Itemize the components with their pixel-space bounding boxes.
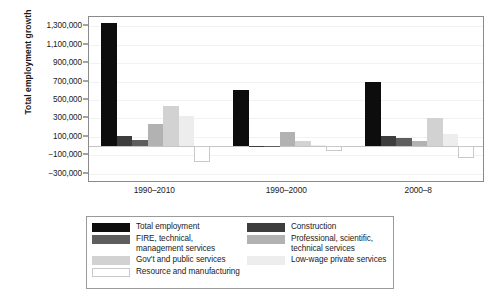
y-tick-label: 500,000	[53, 95, 82, 104]
bar	[295, 141, 311, 147]
grid-line	[89, 118, 483, 119]
bar	[326, 146, 342, 151]
bar	[117, 136, 133, 146]
legend-label: Resource and manufacturing	[136, 267, 240, 277]
bar	[148, 124, 164, 146]
bar	[427, 118, 443, 146]
y-tick-label: −300,000	[48, 168, 82, 177]
legend-swatch	[92, 268, 130, 277]
legend-item[interactable]: Resource and manufacturing	[92, 267, 240, 277]
bar	[458, 146, 474, 158]
legend-label: Low-wage private services	[291, 255, 386, 265]
legend-item[interactable]: Low-wage private services	[247, 255, 391, 265]
grid-line	[89, 155, 483, 156]
bar	[101, 23, 117, 147]
y-axis-tick-labels: 1,300,0001,100,000900,000700,000500,0003…	[18, 16, 88, 182]
y-tick-label: 300,000	[53, 113, 82, 122]
legend-swatch	[247, 223, 285, 232]
legend-label-line1: FIRE, technical,	[136, 234, 215, 244]
legend-item[interactable]: Gov't and public services	[92, 255, 240, 265]
bar	[381, 136, 397, 146]
legend-label-line2: technical services	[291, 244, 373, 254]
legend-swatch	[92, 223, 130, 232]
bar	[443, 134, 459, 146]
legend-label-line1: Professional, scientific,	[291, 234, 373, 244]
chart-figure: Total employment growth 1,300,0001,100,0…	[0, 0, 494, 303]
bar	[311, 145, 327, 146]
legend-label-line2: management services	[136, 244, 215, 254]
grid-line	[89, 45, 483, 46]
y-tick-label: 1,300,000	[46, 21, 82, 30]
bar	[163, 106, 179, 146]
legend-item[interactable]: Construction	[247, 222, 391, 232]
legend-item[interactable]: Total employment	[92, 222, 240, 232]
grid-line	[89, 26, 483, 27]
x-tick-label: 1990–2000	[266, 185, 307, 195]
bar	[396, 138, 412, 146]
legend-label: FIRE, technical,management services	[136, 234, 215, 253]
bar	[179, 116, 195, 146]
legend-swatch	[92, 235, 130, 244]
grid-line	[89, 82, 483, 83]
y-tick-label: 900,000	[53, 58, 82, 67]
grid-line	[89, 100, 483, 101]
y-tick-label: −100,000	[48, 150, 82, 159]
legend-column-left: Total employmentFIRE, technical,manageme…	[92, 222, 240, 279]
bar	[233, 90, 249, 146]
x-axis-tick-labels: 1990–20101990–20002000–8	[88, 185, 484, 199]
x-tick-label: 2000–8	[405, 185, 432, 195]
grid-line	[89, 63, 483, 64]
y-tick-label: 100,000	[53, 131, 82, 140]
legend-swatch	[247, 256, 285, 265]
legend-swatch	[247, 235, 285, 244]
legend-item[interactable]: FIRE, technical,management services	[92, 234, 240, 253]
bar	[194, 146, 210, 162]
bar	[365, 82, 381, 146]
legend-label: Total employment	[136, 222, 199, 232]
legend-label: Gov't and public services	[136, 255, 226, 265]
legend-label: Construction	[291, 222, 336, 232]
bar	[264, 146, 280, 147]
bar	[249, 146, 265, 147]
plot-area	[88, 16, 484, 182]
chart-legend: Total employmentFIRE, technical,manageme…	[86, 216, 394, 289]
y-tick-label: 700,000	[53, 76, 82, 85]
bar	[132, 140, 148, 146]
legend-column-right: ConstructionProfessional, scientific,tec…	[247, 222, 391, 267]
bar	[412, 141, 428, 146]
x-tick-label: 1990–2010	[134, 185, 175, 195]
y-tick-label: 1,100,000	[46, 39, 82, 48]
legend-swatch	[92, 256, 130, 265]
legend-label: Professional, scientific,technical servi…	[291, 234, 373, 253]
zero-baseline	[89, 146, 483, 147]
grid-line	[89, 174, 483, 175]
legend-item[interactable]: Professional, scientific,technical servi…	[247, 234, 391, 253]
bar	[280, 132, 296, 146]
